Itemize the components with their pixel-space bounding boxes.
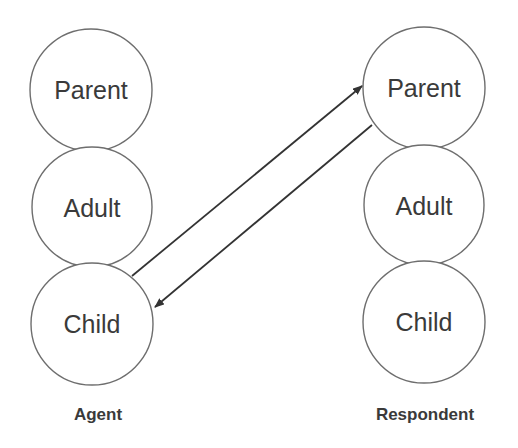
respondent-parent-label: Parent (387, 74, 461, 102)
respondent-adult-node: Adult (364, 145, 484, 265)
agent-caption: Agent (74, 405, 123, 424)
agent-parent-node: Parent (30, 29, 152, 151)
agent-column: Parent Adult Child Agent (30, 29, 153, 424)
ego-states-diagram: Parent Adult Child Agent Parent Adult Ch… (0, 0, 518, 448)
arrow-respondent-parent-to-agent-child (155, 125, 372, 307)
respondent-caption: Respondent (376, 405, 475, 424)
respondent-adult-label: Adult (396, 192, 453, 220)
agent-child-node: Child (31, 263, 153, 385)
respondent-child-label: Child (396, 308, 453, 336)
arrow-agent-child-to-respondent-parent (132, 86, 362, 276)
agent-child-label: Child (64, 310, 121, 338)
respondent-column: Parent Adult Child Respondent (363, 27, 485, 424)
respondent-child-node: Child (363, 261, 485, 383)
agent-parent-label: Parent (54, 76, 128, 104)
agent-adult-label: Adult (64, 194, 121, 222)
respondent-parent-node: Parent (363, 27, 485, 149)
agent-adult-node: Adult (32, 147, 152, 267)
